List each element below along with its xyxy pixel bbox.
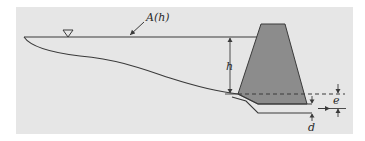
reservoir-diagram: A(h) h e d — [0, 0, 365, 141]
diagram-panel — [16, 7, 353, 134]
head-label: h — [226, 60, 233, 73]
offset-label: e — [333, 94, 340, 107]
surface-area-label: A(h) — [145, 11, 170, 24]
diameter-label: d — [308, 121, 315, 134]
